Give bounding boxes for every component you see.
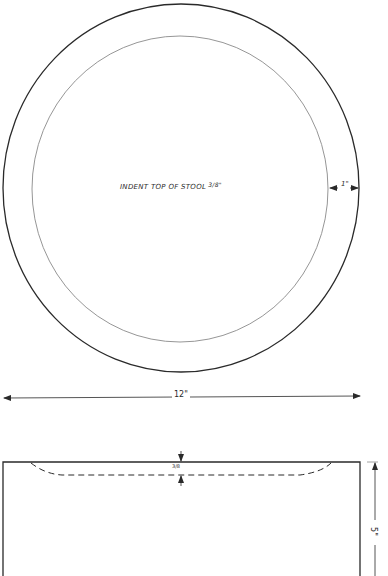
indent-note-text: INDENT TOP OF STOOL <box>120 183 206 191</box>
side-view <box>3 451 378 576</box>
rim-width-label: 1" <box>341 180 349 188</box>
indent-dashed-profile <box>31 463 331 475</box>
diameter-label: 12" <box>172 390 190 399</box>
indent-note-fraction: 3/8" <box>208 181 222 188</box>
side-outline <box>3 462 360 576</box>
height-label: 5" <box>369 527 378 536</box>
technical-drawing <box>0 0 388 576</box>
indent-depth-label: 3/8 <box>172 463 180 469</box>
indent-note: INDENT TOP OF STOOL3/8" <box>120 181 222 191</box>
